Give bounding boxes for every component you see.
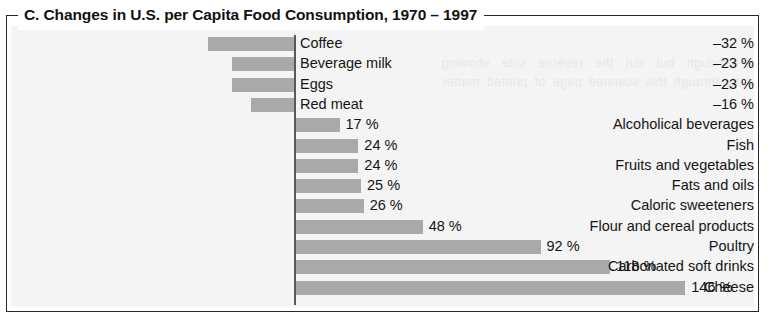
bar-row: Poultry92 % bbox=[11, 237, 754, 257]
bar-category-label: Poultry bbox=[476, 237, 754, 257]
bar bbox=[232, 57, 294, 71]
bar-value-label: 48 % bbox=[429, 217, 462, 237]
bar bbox=[294, 220, 423, 234]
bar-value-label: 24 % bbox=[364, 156, 397, 176]
bar-value-label: –16 % bbox=[520, 95, 754, 115]
bar-row: Alcoholical beverages17 % bbox=[11, 115, 754, 135]
bar-value-label: 92 % bbox=[547, 237, 580, 257]
bar-category-label: Beverage milk bbox=[300, 54, 392, 74]
bar bbox=[232, 78, 294, 92]
bar-row: Cheese146 % bbox=[11, 278, 754, 298]
bar-row: Fish24 % bbox=[11, 136, 754, 156]
bar-category-label: Coffee bbox=[300, 34, 342, 54]
bar-category-label: Fats and oils bbox=[476, 176, 754, 196]
bar-value-label: –23 % bbox=[539, 75, 754, 95]
bar-category-label: Fruits and vegetables bbox=[476, 156, 754, 176]
bar-category-label: Carbonated soft drinks bbox=[476, 257, 754, 277]
bar-value-label: –23 % bbox=[539, 54, 754, 74]
bar-row: Caloric sweeteners26 % bbox=[11, 196, 754, 216]
bar-value-label: 25 % bbox=[367, 176, 400, 196]
bar bbox=[294, 159, 358, 173]
bar-value-label: 17 % bbox=[346, 115, 379, 135]
bar-value-label: 118 % bbox=[616, 257, 656, 277]
bar-value-label: 26 % bbox=[370, 196, 403, 216]
bar-category-label: Red meat bbox=[300, 95, 363, 115]
chart-title: C. Changes in U.S. per Capita Food Consu… bbox=[18, 0, 484, 30]
bar bbox=[294, 199, 364, 213]
bar-rows-container: Coffee–32 %Beverage milk–23 %Eggs–23 %Re… bbox=[11, 26, 754, 307]
bar-row: Beverage milk–23 % bbox=[11, 54, 754, 74]
bar-row: Flour and cereal products48 % bbox=[11, 217, 754, 237]
bar-value-label: –32 % bbox=[563, 34, 754, 54]
bar-category-label: Caloric sweeteners bbox=[476, 196, 754, 216]
bar-row: Coffee–32 % bbox=[11, 34, 754, 54]
bar-row: Red meat–16 % bbox=[11, 95, 754, 115]
bar bbox=[294, 139, 358, 153]
bar-value-label: 24 % bbox=[364, 136, 397, 156]
bar-row: Fats and oils25 % bbox=[11, 176, 754, 196]
bar-value-label: 146 % bbox=[691, 278, 732, 298]
bar-category-label: Alcoholical beverages bbox=[476, 115, 754, 135]
bar-row: Eggs–23 % bbox=[11, 75, 754, 95]
figure-panel: the enough but out the reverse side show… bbox=[0, 0, 773, 325]
bar bbox=[251, 98, 294, 112]
bar-category-label: Flour and cereal products bbox=[476, 217, 754, 237]
bar-row: Fruits and vegetables24 % bbox=[11, 156, 754, 176]
bar-category-label: Fish bbox=[476, 136, 754, 156]
bar bbox=[294, 118, 340, 132]
zero-axis-line bbox=[294, 35, 296, 305]
bar bbox=[208, 37, 294, 51]
bar bbox=[294, 179, 361, 193]
bar-row: Carbonated soft drinks118 % bbox=[11, 257, 754, 277]
chart-plot-area: the enough but out the reverse side show… bbox=[11, 26, 754, 307]
bar-category-label: Eggs bbox=[300, 75, 333, 95]
